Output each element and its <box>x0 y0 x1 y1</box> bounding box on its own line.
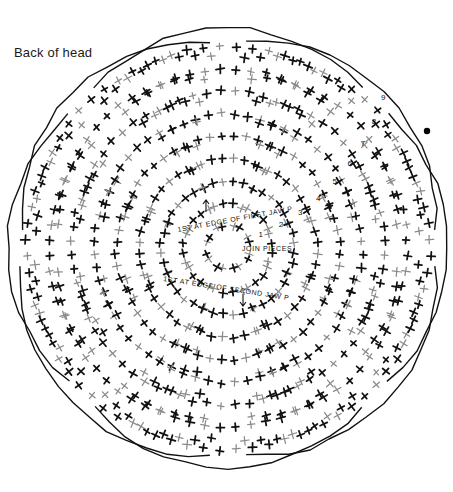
stitch-cross <box>150 429 161 441</box>
stitch-cross <box>424 218 434 228</box>
stitch-cross <box>408 171 419 182</box>
stitch-cross <box>149 292 160 303</box>
stitch-cross <box>127 66 137 76</box>
stitch-cross <box>312 144 323 155</box>
diagram-canvas: 1ST AT EDGE OF FIRST JAW PIECE 1ST AT ED… <box>0 0 453 492</box>
stitch-cross <box>410 177 421 188</box>
stitch-cross <box>75 365 87 377</box>
stitch-cross <box>114 226 123 235</box>
stitch-cross <box>97 158 108 169</box>
stitch-cross <box>25 268 33 277</box>
stitch-cross <box>256 187 268 199</box>
stitch-cross <box>189 92 197 100</box>
stitch-cross <box>247 412 255 420</box>
stitch-cross <box>415 276 424 285</box>
stitch-cross <box>127 189 138 200</box>
stitch-cross <box>305 273 316 283</box>
stitch-cross <box>331 274 339 282</box>
stitch-cross <box>322 410 334 422</box>
stitch-cross <box>263 74 271 82</box>
stitch-cross <box>113 100 124 111</box>
stitch-cross <box>77 200 87 211</box>
stitch-cross <box>288 258 299 269</box>
stitch-cross <box>248 443 257 452</box>
stitch-cross <box>182 322 194 334</box>
stitch-cross <box>413 195 423 204</box>
direction-arrow-icon <box>240 294 246 306</box>
stitch-cross <box>381 236 389 245</box>
stitch-cross <box>216 423 225 432</box>
stitch-cross <box>131 307 144 320</box>
stitch-cross <box>56 206 64 214</box>
stitch-cross <box>332 410 343 421</box>
stitch-cross <box>159 258 168 267</box>
stitch-cross <box>91 250 100 259</box>
stitch-cross <box>262 68 270 76</box>
stitch-cross <box>135 249 144 258</box>
stitch-cross <box>289 228 298 237</box>
stitch-cross <box>184 75 194 85</box>
stitch-cross <box>317 118 329 130</box>
stitch-cross <box>188 397 197 407</box>
stitch-cross <box>136 239 144 247</box>
stitch-cross <box>218 380 225 388</box>
stitch-cross <box>112 262 122 271</box>
stitch-cross <box>230 110 239 119</box>
stitch-cross <box>206 133 214 141</box>
stitch-cross <box>123 152 134 163</box>
stitch-cross <box>53 267 63 277</box>
stitch-cross <box>123 199 135 211</box>
stitch-cross <box>37 179 45 187</box>
stitch-cross <box>324 377 337 390</box>
stitch-cross <box>110 249 119 259</box>
stitch-cross <box>233 43 241 51</box>
stitch-cross <box>241 157 249 165</box>
stitch-cross <box>391 219 401 229</box>
stitch-cross <box>376 279 384 287</box>
stitch-cross <box>182 45 192 55</box>
stitch-cross <box>257 270 269 282</box>
stitch-cross <box>248 45 256 54</box>
stitch-cross <box>153 383 163 393</box>
stitch-cross <box>200 76 207 83</box>
stitch-cross <box>282 310 294 322</box>
stitch-cross <box>87 390 98 401</box>
stitch-cross <box>357 238 364 245</box>
stitch-cross <box>95 276 104 285</box>
stitch-cross <box>174 389 186 400</box>
stitch-cross <box>158 333 168 343</box>
stitch-cross <box>289 133 300 144</box>
stitch-cross <box>136 260 146 270</box>
stitch-cross <box>179 249 188 258</box>
stitch-cross <box>199 44 207 52</box>
stitch-cross <box>115 272 126 283</box>
stitch-cross <box>157 249 165 257</box>
stitch-cross <box>289 334 299 344</box>
stitch-cross <box>103 299 114 310</box>
stitch-cross <box>195 97 204 106</box>
stitch-cross <box>372 215 380 223</box>
stitch-cross <box>188 297 199 308</box>
stitch-cross <box>166 50 176 60</box>
stitch-cross <box>119 381 129 391</box>
stitch-cross <box>55 342 66 352</box>
stitch-cross <box>284 103 294 112</box>
stitch-cross <box>297 294 307 303</box>
row-number-label: 1 <box>258 230 263 239</box>
stitch-cross <box>30 260 40 270</box>
stitch-cross <box>200 420 210 430</box>
stitch-cross <box>90 237 99 246</box>
stitch-cross <box>218 331 228 341</box>
stitch-cross <box>312 179 322 189</box>
stitch-cross <box>46 236 54 244</box>
stitch-cross <box>243 112 252 121</box>
stitch-cross <box>172 318 182 328</box>
stitch-cross <box>91 224 100 232</box>
stitch-cross <box>127 417 139 429</box>
stitch-cross <box>338 137 349 148</box>
stitch-cross <box>193 350 204 360</box>
stitch-cross <box>310 226 320 237</box>
stitch-cross <box>258 299 269 310</box>
stitch-cross <box>219 309 227 317</box>
stitch-cross <box>134 342 144 352</box>
